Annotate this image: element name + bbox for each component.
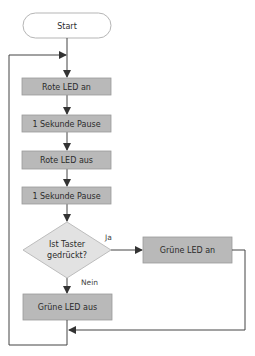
- process-label: Rote LED an: [42, 83, 91, 92]
- no-label: Nein: [81, 278, 98, 287]
- yes-label: Ja: [104, 233, 112, 242]
- process-gruene-led-an: Grüne LED an: [143, 237, 232, 263]
- process-label: 1 Sekunde Pause: [32, 192, 100, 201]
- process-rote-led-aus: Rote LED aus: [22, 151, 111, 169]
- start-label: Start: [57, 22, 77, 31]
- decision-taster: Ist Taster gedrückt?: [23, 222, 111, 278]
- process-label: Grüne LED an: [160, 246, 215, 255]
- process-label: Rote LED aus: [40, 156, 93, 165]
- process-gruene-led-aus: Grüne LED aus: [23, 294, 112, 320]
- decision-label-line2: gedrückt?: [47, 251, 87, 260]
- flowchart-canvas: Start Rote LED an 1 Sekunde Pause Rote L…: [0, 0, 255, 356]
- start-terminal: Start: [23, 13, 111, 38]
- decision-label-line1: Ist Taster: [49, 240, 86, 249]
- process-pause-2: 1 Sekunde Pause: [22, 187, 111, 204]
- process-rote-led-an: Rote LED an: [22, 78, 111, 95]
- process-pause-1: 1 Sekunde Pause: [22, 115, 111, 132]
- process-label: Grüne LED aus: [38, 303, 97, 312]
- process-label: 1 Sekunde Pause: [32, 120, 100, 129]
